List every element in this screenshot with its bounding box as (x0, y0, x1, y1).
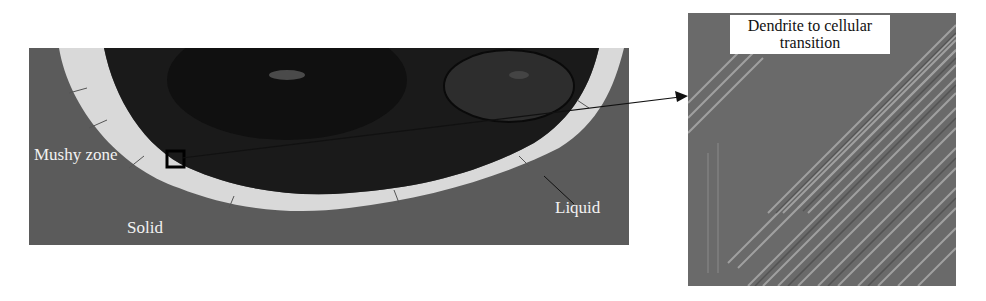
callout-line-2: transition (730, 34, 890, 51)
solid-label: Solid (127, 218, 163, 238)
melt-pool-graphic (29, 48, 629, 245)
liquid-label: Liquid (555, 198, 600, 218)
melt-pool-simulation-panel: Mushy zone Solid Liquid (29, 48, 629, 245)
callout-label: Dendrite to cellular transition (730, 15, 890, 54)
micrograph-panel: Dendrite to cellular transition (688, 13, 956, 286)
arrow-head-icon (675, 91, 688, 102)
callout-line-1: Dendrite to cellular (730, 17, 890, 34)
mushy-zone-label: Mushy zone (34, 145, 118, 165)
